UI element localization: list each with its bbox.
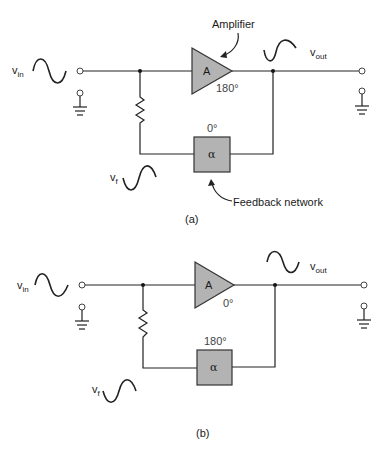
vin-label-a: vin	[12, 64, 24, 79]
amplifier-callout-arrow-a	[222, 33, 238, 56]
resistor-icon-b	[139, 285, 197, 368]
vout-label-b: vout	[310, 260, 327, 275]
output-terminal-b	[361, 282, 367, 288]
output-ground-icon-b	[357, 303, 371, 328]
output-terminal-a	[359, 68, 365, 74]
amplifier-symbol-a: A	[203, 65, 211, 77]
feedback-symbol-b: α	[210, 361, 218, 374]
vin-sine-wave-icon-b	[35, 274, 68, 297]
input-ground-icon-b	[75, 304, 89, 329]
amplifier-phase-b: 0°	[223, 297, 234, 309]
vout-sine-wave-icon-a	[264, 40, 296, 61]
vout-label-a: vout	[310, 46, 327, 61]
resistor-icon-a	[136, 71, 194, 154]
vin-label-b: vin	[17, 279, 29, 294]
caption-b: (b)	[196, 427, 209, 439]
panel-a: vin A 180° Amplifier	[12, 18, 369, 225]
vf-sine-wave-icon-a	[123, 166, 156, 190]
vf-label-a: vf	[110, 171, 119, 186]
vf-sine-wave-icon-b	[103, 380, 136, 403]
arrowhead-icon-a2	[208, 179, 215, 186]
input-terminal-a	[77, 68, 83, 74]
panel-b: vin A 0° vout	[17, 252, 371, 440]
feedback-callout-a: Feedback network	[233, 196, 323, 208]
feedback-callout-arrow-a	[212, 182, 232, 201]
feedback-phase-b: 180°	[204, 335, 227, 347]
vin-sine-wave-icon-a	[33, 59, 66, 83]
input-ground-icon-a	[73, 90, 87, 115]
feedback-oscillator-diagram: vin A 180° Amplifier	[0, 0, 386, 453]
input-terminal-b	[79, 282, 85, 288]
amplifier-symbol-b: A	[205, 279, 213, 291]
feedback-wire-b	[232, 285, 275, 367]
vout-sine-wave-icon-b	[267, 252, 299, 273]
caption-a: (a)	[185, 213, 198, 225]
output-ground-icon-a	[355, 88, 369, 114]
arrowhead-icon-a1	[220, 51, 227, 58]
feedback-symbol-a: α	[208, 148, 216, 161]
amplifier-callout-a: Amplifier	[212, 18, 255, 30]
feedback-phase-a: 0°	[207, 122, 218, 134]
amplifier-phase-a: 180°	[216, 82, 239, 94]
vf-label-b: vf	[92, 383, 101, 398]
